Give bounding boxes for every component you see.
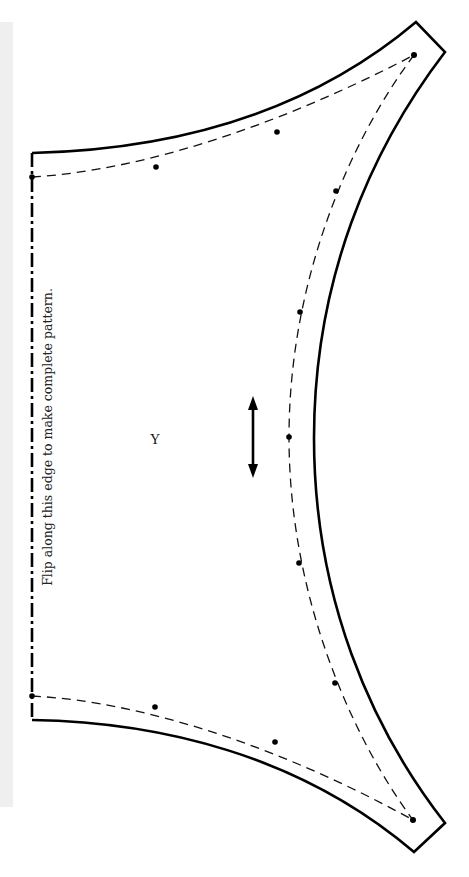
seam-line-bottom	[32, 696, 413, 820]
fold-instruction-label: Flip along this edge to make complete pa…	[40, 288, 55, 586]
seam-line-curve	[289, 55, 414, 820]
seam-line-top	[32, 55, 414, 177]
notch-dots	[29, 52, 417, 823]
cut-line	[32, 22, 445, 852]
piece-label: Y	[150, 432, 160, 448]
pattern-piece	[0, 0, 469, 877]
grainline-arrow-icon	[248, 396, 258, 478]
